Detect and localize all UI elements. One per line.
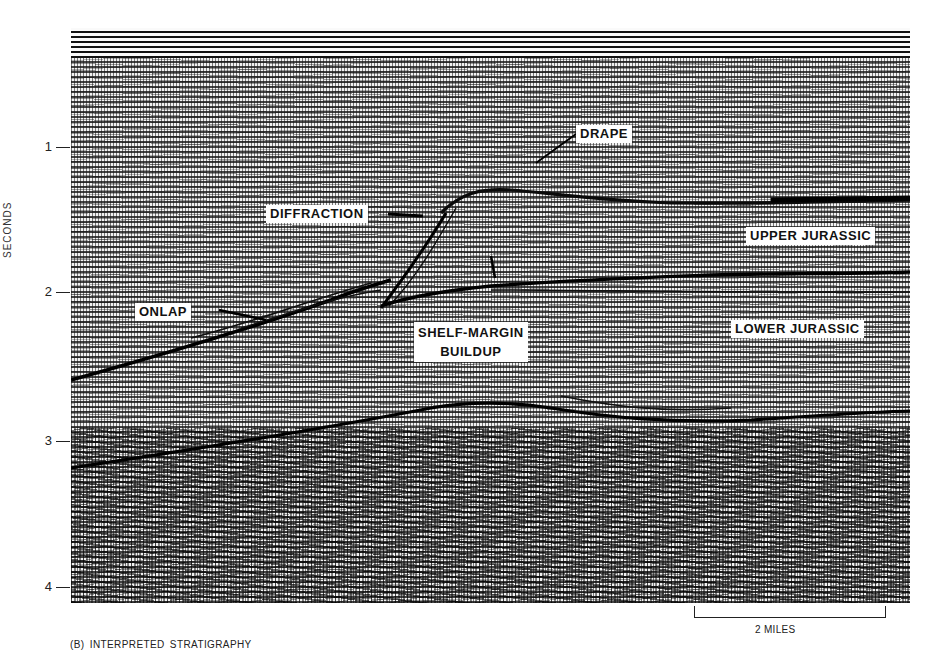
scale-bar	[694, 606, 886, 618]
deep-horizon-branch	[561, 396, 731, 410]
drape-leader	[536, 134, 576, 163]
diffraction-leader	[388, 214, 423, 216]
seismic-figure: DRAPE DIFFRACTION UPPER JURASSIC ONLAP S…	[0, 0, 928, 658]
interpreted-horizons	[71, 28, 910, 603]
label-shelf-margin-buildup: SHELF-MARGIN BUILDUP	[414, 322, 528, 362]
onlap-reflector-1	[191, 283, 371, 338]
y-tick-3	[56, 441, 70, 442]
boundary-lower-reflector	[491, 290, 910, 292]
y-tick-2	[56, 292, 70, 293]
label-drape: DRAPE	[576, 125, 632, 143]
jurassic-boundary-horizon	[381, 272, 910, 306]
label-shelf-margin-line1: SHELF-MARGIN	[418, 323, 524, 342]
y-tick-label-3: 3	[40, 434, 52, 448]
label-shelf-margin-line2: BUILDUP	[418, 342, 524, 361]
y-tick-label-1: 1	[40, 140, 52, 154]
label-upper-jurassic: UPPER JURASSIC	[746, 227, 875, 245]
y-tick-1	[56, 147, 70, 148]
label-diffraction: DIFFRACTION	[266, 205, 368, 223]
y-axis-title: SECONDS	[2, 178, 13, 258]
crest-fault	[491, 256, 495, 278]
figure-caption: (B) INTERPRETED STRATIGRAPHY	[70, 639, 252, 650]
y-tick-4	[56, 587, 70, 588]
y-tick-label-4: 4	[40, 580, 52, 594]
scale-bar-label: 2 MILES	[755, 624, 795, 635]
y-tick-label-2: 2	[40, 285, 52, 299]
onlap-leader	[219, 310, 266, 320]
label-lower-jurassic: LOWER JURASSIC	[731, 320, 864, 338]
deep-horizon	[71, 403, 910, 468]
label-onlap: ONLAP	[135, 303, 191, 321]
onlap-surface	[71, 280, 391, 380]
upper-right-reflector	[771, 198, 910, 200]
